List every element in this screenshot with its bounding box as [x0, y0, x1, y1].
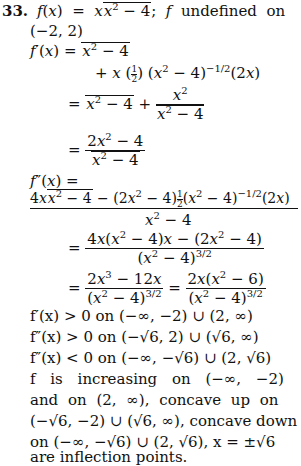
first-derivative-line2: + x (12) (x2 − 4)−1/2(2x) — [95, 64, 260, 84]
sign-analysis-fdoubleprime-positive: f″(x) > 0 on (−√6, 2) ∪ (√6, ∞) — [30, 328, 259, 346]
first-derivative-step2: = x2 − 4 + x2x2 − 4 — [68, 86, 204, 123]
second-derivative-label: f″(x) = — [30, 172, 79, 190]
sign-analysis-fprime: f′(x) > 0 on (−∞, −2) ∪ (2, ∞) — [30, 307, 253, 325]
first-derivative-step3: = 2x2 − 4x2 − 4 — [68, 132, 145, 169]
second-derivative-step2: = 4x(x2 − 4)x − (2x2 − 4)(x2 − 4)3/2 — [68, 230, 264, 267]
domain-interval: (−2, 2) — [30, 22, 83, 40]
problem-number: 33. — [2, 2, 28, 20]
sign-analysis-fdoubleprime-negative: f″(x) < 0 on (−∞, −√6) ∪ (2, √6) — [30, 349, 271, 367]
second-derivative-step3: = 2x3 − 12x(x2 − 4)3/2 = 2x(x2 − 6)(x2 −… — [68, 270, 266, 307]
conclusion-line-2: and on (2, ∞), concave up on — [30, 391, 279, 409]
fraction-bar — [30, 208, 298, 209]
second-derivative-numerator: 4xx2 − 4 − (2x2 − 4)12(x2 − 4)−1/2(2x) — [30, 189, 290, 209]
conclusion-line-5: are inflection points. — [30, 448, 187, 466]
conclusion-line-1: f is increasing on (−∞, −2) — [30, 370, 284, 388]
conclusion-line-3: (−√6, −2) ∪ (√6, ∞), concave down — [30, 412, 297, 430]
problem-statement: 33. f(x) = xx2 − 4; f undefined on — [2, 2, 285, 20]
first-derivative-line1: f′(x) = x2 − 4 — [30, 42, 130, 60]
second-derivative-denominator: x2 − 4 — [145, 211, 192, 229]
